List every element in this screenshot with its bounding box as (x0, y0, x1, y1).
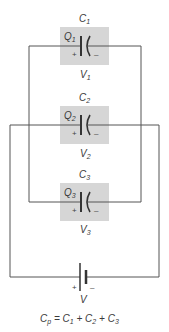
capacitor-3-label: C3 (79, 169, 90, 181)
capacitor-2-voltage: V2 (80, 148, 91, 160)
capacitor-1-label: C1 (79, 13, 90, 25)
capacitor-1-minus: – (94, 50, 99, 59)
capacitor-3-minus: – (94, 206, 99, 215)
capacitor-2-minus: – (94, 129, 99, 138)
capacitor-3-plus: + (72, 206, 77, 215)
parallel-capacitor-circuit: C1 Q1 + – V1 C2 Q2 + – V2 C3 Q3 + – V3 +… (0, 0, 169, 332)
capacitor-2-label: C2 (79, 92, 90, 104)
parallel-capacitance-formula: Cp = C1 + C2 + C3 (40, 313, 119, 326)
battery-voltage-label: V (80, 294, 88, 305)
capacitor-2-plus: + (72, 129, 77, 138)
capacitor-1-voltage: V1 (80, 69, 91, 81)
wires (10, 46, 159, 277)
battery-plus: + (72, 283, 77, 292)
capacitor-1-plus: + (72, 50, 77, 59)
battery-symbol (80, 263, 86, 291)
capacitor-3-voltage: V3 (80, 224, 91, 236)
battery-minus: – (90, 283, 95, 292)
